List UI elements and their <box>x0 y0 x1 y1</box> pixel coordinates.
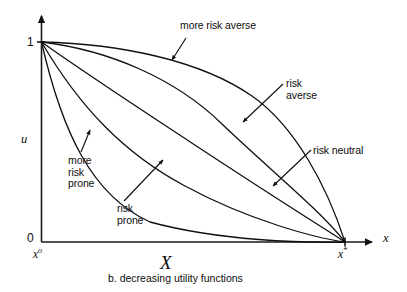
leader-risk-averse <box>243 84 283 122</box>
figure-decreasing-utility-functions: 1 0 u x xo x* X more risk averse riskave… <box>0 0 407 292</box>
x-axis-label: x <box>383 231 389 246</box>
curve-risk-prone <box>42 42 346 242</box>
x-origin-label: xo <box>33 246 42 260</box>
leader-more-risk-prone <box>81 130 90 152</box>
annotation-risk-prone-line1: risk <box>117 202 133 214</box>
curve-risk-neutral <box>42 42 346 242</box>
x-star-label: x* <box>338 246 347 260</box>
annotation-more-risk-prone-line1: more <box>68 154 92 166</box>
x-axis-name: X <box>160 252 172 274</box>
curve-more-risk-averse <box>42 42 346 242</box>
x-origin-sup: o <box>38 246 42 255</box>
curve-risk-averse <box>42 42 346 242</box>
annotation-risk-averse: riskaverse <box>286 78 317 101</box>
annotation-more-risk-prone-line2: risk <box>68 166 84 178</box>
annotation-more-risk-averse: more risk averse <box>180 20 256 32</box>
annotation-risk-averse-line1: risk <box>286 77 302 89</box>
annotation-risk-prone-line2: prone <box>117 214 143 226</box>
annotation-more-risk-prone: moreriskprone <box>68 155 94 190</box>
y-axis-label: u <box>21 132 27 147</box>
x-star-sup: * <box>343 246 347 255</box>
y-tick-label-0: 0 <box>27 231 34 245</box>
annotation-risk-prone: riskprone <box>117 203 143 226</box>
annotation-risk-averse-line2: averse <box>286 89 317 101</box>
leader-risk-prone <box>124 160 163 201</box>
annotation-risk-neutral: risk neutral <box>313 145 363 157</box>
leader-risk-neutral <box>273 150 311 186</box>
leader-more-risk-averse <box>172 38 186 60</box>
annotation-more-risk-prone-line3: prone <box>68 177 94 189</box>
y-tick-label-1: 1 <box>27 35 34 49</box>
figure-caption: b. decreasing utility functions <box>108 272 243 284</box>
